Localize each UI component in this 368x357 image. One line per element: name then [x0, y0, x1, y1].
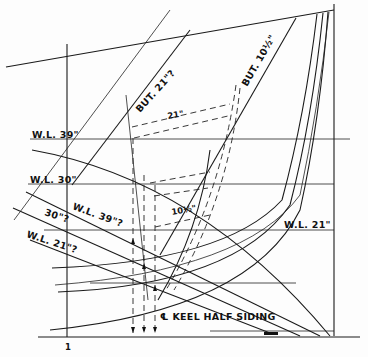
section-curve-2 — [58, 13, 323, 292]
label-wl21: W.L. 21" — [284, 219, 331, 230]
buttock-10 — [160, 18, 296, 255]
dim-21-lower — [134, 116, 228, 138]
label-keel-half-siding: ℄ KEEL HALF SIDING — [160, 311, 276, 322]
section-curve-4 — [55, 12, 329, 285]
arrow-down — [153, 327, 157, 333]
label-wl39-diag: W.L. 39"? — [71, 201, 124, 229]
proj-30 — [150, 172, 210, 183]
label-dim21: 21" — [167, 108, 185, 121]
section-curve-1 — [50, 12, 328, 330]
label-dim10: 10½" — [171, 203, 197, 217]
label-wl30: W.L. 30" — [30, 174, 77, 185]
keel-mark — [264, 332, 278, 335]
label-wl30-diag: 30"? — [43, 206, 70, 224]
label-tick: 1 — [65, 342, 71, 352]
arrow-down — [142, 327, 146, 333]
lofting-diagram: W.L. 39" W.L. 30" W.L. 21" W.L. 39"? 30"… — [0, 0, 368, 357]
diagram-svg: W.L. 39" W.L. 30" W.L. 21" W.L. 39"? 30"… — [0, 0, 368, 357]
arrow-up — [131, 238, 135, 244]
label-wl39: W.L. 39" — [32, 129, 79, 140]
label-but21: BUT. 21"? — [133, 67, 177, 114]
buttock-21 — [72, 30, 190, 185]
arrow-down — [131, 327, 135, 333]
arc-rise — [14, 10, 170, 220]
